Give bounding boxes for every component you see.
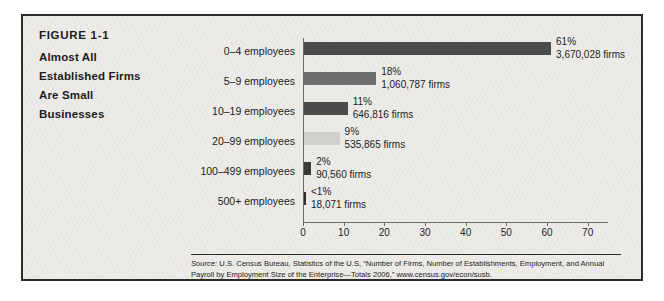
category-label: 20–99 employees	[191, 135, 295, 147]
value-label: 2% 90,560 firms	[316, 156, 371, 181]
chart-row: 20–99 employees 9% 535,865 firms	[191, 126, 621, 156]
x-axis-tick	[506, 222, 507, 226]
x-axis-tick-label: 30	[419, 227, 430, 238]
category-label: 0–4 employees	[191, 45, 295, 57]
x-axis-tick	[547, 222, 548, 226]
value-firms: 3,670,028 firms	[556, 49, 625, 62]
figure-title-line-4: Businesses	[39, 105, 189, 124]
value-percent: 9%	[345, 126, 406, 139]
figure-card: FIGURE 1-1 Almost All Established Firms …	[21, 14, 643, 281]
chart-row: 5–9 employees 18% 1,060,787 firms	[191, 66, 621, 96]
x-axis-tick-label: 40	[460, 227, 471, 238]
figure-title-line-3: Are Small	[39, 86, 189, 105]
x-axis-tick	[588, 222, 589, 226]
bar	[303, 162, 311, 175]
value-label: <1% 18,071 firms	[311, 186, 366, 211]
value-firms: 18,071 firms	[311, 199, 366, 212]
source-note: Source: U.S. Census Bureau, Statistics o…	[191, 259, 627, 280]
category-label: 100–499 employees	[191, 165, 295, 177]
bar-track: 9% 535,865 firms	[303, 126, 621, 156]
source-text: U.S. Census Bureau, Statistics of the U.…	[191, 259, 604, 279]
bar-chart: 0–4 employees 61% 3,670,028 firms 5–9 em…	[191, 36, 621, 231]
value-percent: <1%	[311, 186, 366, 199]
value-percent: 11%	[353, 96, 414, 109]
bar	[303, 132, 340, 145]
value-label: 9% 535,865 firms	[345, 126, 406, 151]
value-percent: 18%	[381, 66, 450, 79]
source-label: Source:	[191, 259, 217, 268]
x-axis-line	[303, 222, 608, 223]
x-axis-tick-label: 10	[338, 227, 349, 238]
bar	[303, 102, 348, 115]
chart-row: 0–4 employees 61% 3,670,028 firms	[191, 36, 621, 66]
x-axis-tick-label: 50	[501, 227, 512, 238]
bar-track: 61% 3,670,028 firms	[303, 36, 621, 66]
value-firms: 1,060,787 firms	[381, 79, 450, 92]
x-axis-tick-label: 70	[582, 227, 593, 238]
bar-track: <1% 18,071 firms	[303, 186, 621, 216]
value-label: 18% 1,060,787 firms	[381, 66, 450, 91]
chart-row: 100–499 employees 2% 90,560 firms	[191, 156, 621, 186]
figure-title-block: FIGURE 1-1 Almost All Established Firms …	[39, 29, 189, 124]
value-firms: 535,865 firms	[345, 139, 406, 152]
value-firms: 90,560 firms	[316, 169, 371, 182]
bar	[303, 72, 376, 85]
chart-row: 10–19 employees 11% 646,816 firms	[191, 96, 621, 126]
x-axis-tick	[466, 222, 467, 226]
category-label: 5–9 employees	[191, 75, 295, 87]
value-firms: 646,816 firms	[353, 109, 414, 122]
value-label: 11% 646,816 firms	[353, 96, 414, 121]
x-axis-tick-label: 0	[300, 227, 306, 238]
bar-track: 11% 646,816 firms	[303, 96, 621, 126]
x-axis-tick-label: 20	[379, 227, 390, 238]
bar-track: 18% 1,060,787 firms	[303, 66, 621, 96]
chart-row: 500+ employees <1% 18,071 firms	[191, 186, 621, 216]
bar	[303, 42, 551, 55]
x-axis-tick	[384, 222, 385, 226]
x-axis-tick	[344, 222, 345, 226]
category-label: 500+ employees	[191, 195, 295, 207]
figure-title-line-2: Established Firms	[39, 67, 189, 86]
x-axis-tick	[303, 222, 304, 226]
category-label: 10–19 employees	[191, 105, 295, 117]
value-percent: 61%	[556, 36, 625, 49]
value-label: 61% 3,670,028 firms	[556, 36, 625, 61]
figure-number: FIGURE 1-1	[39, 29, 189, 41]
x-axis-tick-label: 60	[541, 227, 552, 238]
y-axis-line	[303, 38, 304, 223]
figure-title-line-1: Almost All	[39, 48, 189, 67]
value-percent: 2%	[316, 156, 371, 169]
x-axis-tick	[425, 222, 426, 226]
source-divider	[191, 254, 621, 255]
bar-track: 2% 90,560 firms	[303, 156, 621, 186]
